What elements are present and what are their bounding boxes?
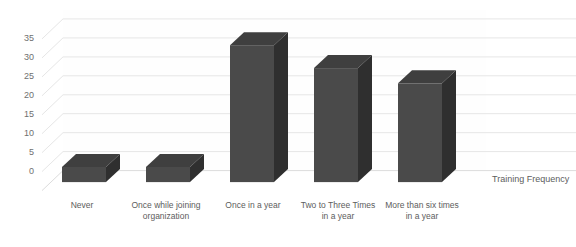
x-tick-label-more-than-six-times-in-a-year[interactable]: More than six times in a year xyxy=(381,200,463,222)
x-tick-label-once-while-joining-organization[interactable]: Once while joining organization xyxy=(124,200,208,222)
legend-label-training-frequency[interactable]: Training Frequency xyxy=(492,174,569,184)
bar-two-to-three-times-in-a-year[interactable] xyxy=(314,55,372,182)
x-tick-label-never[interactable]: Never xyxy=(42,200,122,211)
bar-chart: 35 30 25 20 15 10 5 0 Never Once while j… xyxy=(0,0,576,247)
bar-more-than-six-times-in-a-year[interactable] xyxy=(398,70,456,182)
bar-once-in-a-year[interactable] xyxy=(230,32,288,182)
x-tick-label-two-to-three-times-in-a-year[interactable]: Two to Three Times in a year xyxy=(297,200,379,222)
chart-side-wall xyxy=(42,10,63,190)
x-tick-label-once-in-a-year[interactable]: Once in a year xyxy=(212,200,294,211)
